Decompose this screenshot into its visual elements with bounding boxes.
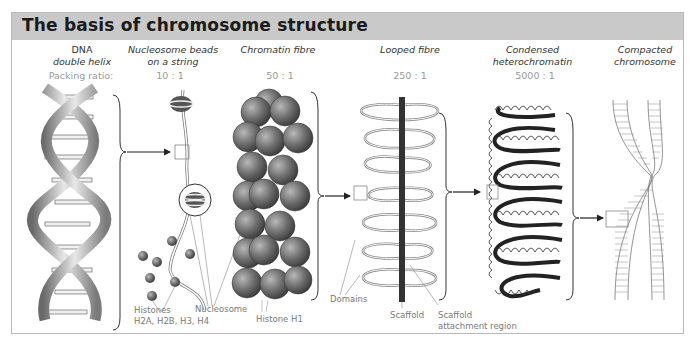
label-domains: Domains xyxy=(330,294,367,305)
histone-spheres xyxy=(138,236,195,301)
nucleosome-beads xyxy=(138,90,240,312)
scaffold-bar xyxy=(399,97,405,302)
dna-double-helix xyxy=(32,88,106,320)
label-scaffold-attachment-region: Scaffold attachment region xyxy=(438,310,517,332)
label-histone-h1: Histone H1 xyxy=(256,314,303,325)
looped-fibre xyxy=(340,97,438,308)
label-scaffold: Scaffold xyxy=(390,310,424,321)
condensed-heterochromatin xyxy=(487,106,562,296)
chromatin-fibre xyxy=(232,89,313,312)
compacted-chromosome xyxy=(606,100,664,300)
label-nucleosome: Nucleosome xyxy=(195,304,247,315)
